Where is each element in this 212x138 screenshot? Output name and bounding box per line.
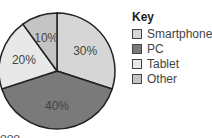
slice-label: 20% (12, 53, 36, 67)
legend-label: Other (147, 72, 177, 86)
swatch-other-icon (132, 74, 142, 84)
legend-label: PC (147, 42, 164, 56)
pie-chart: 30%40%20%10% (0, 0, 130, 138)
swatch-smartphone-icon (132, 29, 142, 39)
legend-item-smartphone: Smartphone (132, 26, 212, 41)
legend-label: Smartphone (147, 27, 212, 41)
slice-label: 40% (45, 99, 69, 113)
swatch-tablet-icon (132, 59, 142, 69)
swatch-pc-icon (132, 44, 142, 54)
slice-label: 30% (73, 44, 97, 58)
legend-title: Key (132, 10, 212, 24)
legend-label: Tablet (147, 57, 179, 71)
slice-label: 10% (34, 31, 58, 45)
clipped-caption: ooo (0, 131, 20, 138)
legend-item-pc: PC (132, 41, 212, 56)
legend-item-other: Other (132, 71, 212, 86)
legend-item-tablet: Tablet (132, 56, 212, 71)
legend: Key Smartphone PC Tablet Other (132, 10, 212, 86)
